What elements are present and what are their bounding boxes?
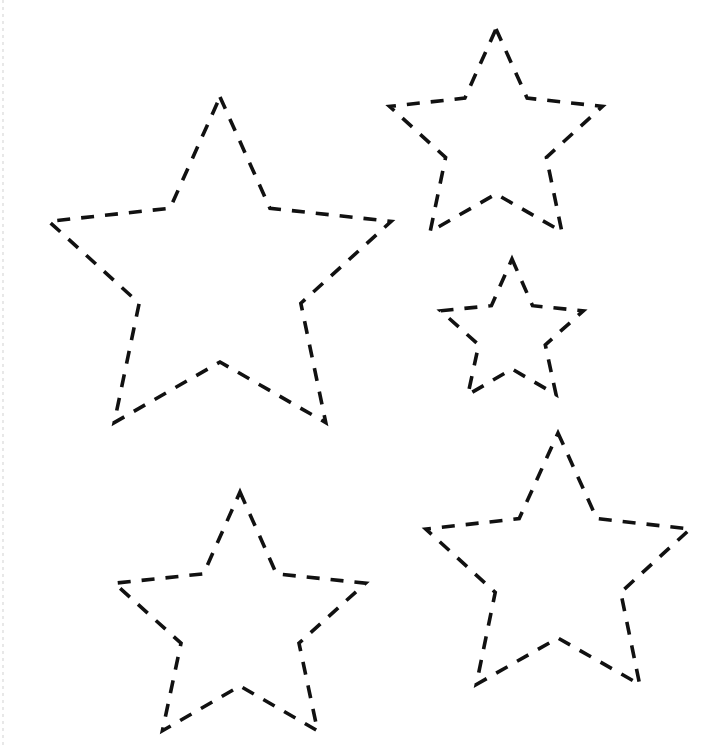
worksheet-page [0, 0, 723, 748]
star-shapes-canvas [0, 0, 723, 748]
page-background [0, 0, 723, 748]
